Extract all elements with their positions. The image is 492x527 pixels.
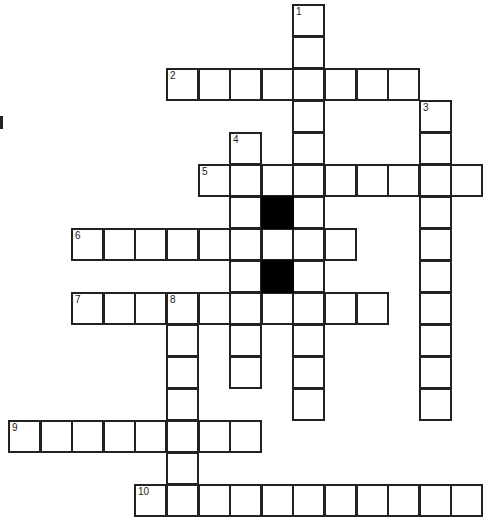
crossword-cell[interactable] [261, 292, 294, 325]
crossword-cell[interactable]: 4 [229, 132, 262, 165]
crossword-cell[interactable] [387, 164, 420, 197]
crossword-cell[interactable] [324, 68, 357, 101]
crossword-cell[interactable] [292, 484, 325, 517]
crossword-cell[interactable] [356, 292, 389, 325]
crossword-cell[interactable] [292, 260, 325, 293]
clue-number: 7 [75, 294, 81, 305]
crossword-cell[interactable] [198, 228, 231, 261]
crossword-cell[interactable] [419, 196, 452, 229]
crossword-cell[interactable] [198, 484, 231, 517]
clue-number: 6 [75, 230, 81, 241]
crossword-cell[interactable] [292, 356, 325, 389]
crossword-cell[interactable] [419, 164, 452, 197]
crossword-cell[interactable] [229, 484, 262, 517]
black-cell [261, 196, 294, 229]
crossword-cell[interactable] [324, 164, 357, 197]
crossword-cell[interactable] [292, 164, 325, 197]
crossword-cell[interactable] [229, 196, 262, 229]
crossword-cell[interactable] [419, 132, 452, 165]
crossword-cell[interactable]: 2 [166, 68, 199, 101]
crossword-cell[interactable] [103, 228, 136, 261]
crossword-cell[interactable] [229, 228, 262, 261]
crossword-cell[interactable] [292, 68, 325, 101]
crossword-cell[interactable] [419, 388, 452, 421]
edge-mark [0, 116, 3, 129]
black-cell [261, 260, 294, 293]
clue-number: 10 [138, 486, 149, 497]
crossword-cell[interactable] [166, 388, 199, 421]
crossword-cell[interactable]: 7 [71, 292, 104, 325]
clue-number: 1 [296, 6, 302, 17]
crossword-cell[interactable] [166, 324, 199, 357]
crossword-cell[interactable] [229, 164, 262, 197]
clue-number: 5 [202, 166, 208, 177]
crossword-cell[interactable] [166, 356, 199, 389]
crossword-cell[interactable] [419, 484, 452, 517]
crossword-cell[interactable] [229, 356, 262, 389]
crossword-cell[interactable] [261, 484, 294, 517]
crossword-cell[interactable] [229, 292, 262, 325]
crossword-cell[interactable]: 10 [134, 484, 167, 517]
crossword-cell[interactable] [71, 420, 104, 453]
crossword-cell[interactable] [292, 388, 325, 421]
crossword-cell[interactable] [229, 420, 262, 453]
clue-number: 2 [170, 70, 176, 81]
crossword-cell[interactable] [356, 164, 389, 197]
crossword-cell[interactable]: 1 [292, 4, 325, 37]
crossword-cell[interactable] [292, 228, 325, 261]
crossword-cell[interactable] [419, 260, 452, 293]
crossword-cell[interactable] [419, 356, 452, 389]
crossword-cell[interactable]: 5 [198, 164, 231, 197]
crossword-cell[interactable] [419, 292, 452, 325]
crossword-cell[interactable] [103, 292, 136, 325]
crossword-cell[interactable] [166, 228, 199, 261]
crossword-cell[interactable] [292, 132, 325, 165]
crossword-cell[interactable] [292, 36, 325, 69]
clue-number: 8 [170, 294, 176, 305]
crossword-cell[interactable] [292, 196, 325, 229]
crossword-cell[interactable] [166, 420, 199, 453]
crossword-cell[interactable] [134, 420, 167, 453]
crossword-cell[interactable] [166, 452, 199, 485]
crossword-cell[interactable] [356, 68, 389, 101]
crossword-cell[interactable] [198, 420, 231, 453]
crossword-cell[interactable] [166, 484, 199, 517]
crossword-cell[interactable] [292, 100, 325, 133]
crossword-cell[interactable] [324, 228, 357, 261]
crossword-cell[interactable] [103, 420, 136, 453]
crossword-cell[interactable] [40, 420, 73, 453]
crossword-cell[interactable] [324, 292, 357, 325]
crossword-cell[interactable] [292, 324, 325, 357]
crossword-cell[interactable] [450, 164, 483, 197]
crossword-cell[interactable] [450, 484, 483, 517]
crossword-cell[interactable]: 8 [166, 292, 199, 325]
clue-number: 4 [233, 134, 239, 145]
clue-number: 9 [12, 422, 18, 433]
crossword-cell[interactable] [261, 228, 294, 261]
crossword-grid: 12345678910 [0, 0, 492, 527]
crossword-cell[interactable]: 9 [8, 420, 41, 453]
crossword-cell[interactable] [134, 292, 167, 325]
clue-number: 3 [423, 102, 429, 113]
crossword-cell[interactable] [134, 228, 167, 261]
crossword-cell[interactable] [198, 68, 231, 101]
crossword-cell[interactable] [387, 484, 420, 517]
crossword-cell[interactable] [387, 68, 420, 101]
crossword-cell[interactable] [419, 228, 452, 261]
crossword-cell[interactable] [229, 324, 262, 357]
crossword-cell[interactable] [292, 292, 325, 325]
crossword-cell[interactable]: 3 [419, 100, 452, 133]
crossword-cell[interactable] [229, 260, 262, 293]
crossword-cell[interactable] [419, 324, 452, 357]
crossword-cell[interactable] [198, 292, 231, 325]
crossword-cell[interactable] [324, 484, 357, 517]
crossword-cell[interactable] [261, 164, 294, 197]
crossword-cell[interactable] [356, 484, 389, 517]
crossword-cell[interactable] [261, 68, 294, 101]
crossword-cell[interactable] [229, 68, 262, 101]
crossword-cell[interactable]: 6 [71, 228, 104, 261]
